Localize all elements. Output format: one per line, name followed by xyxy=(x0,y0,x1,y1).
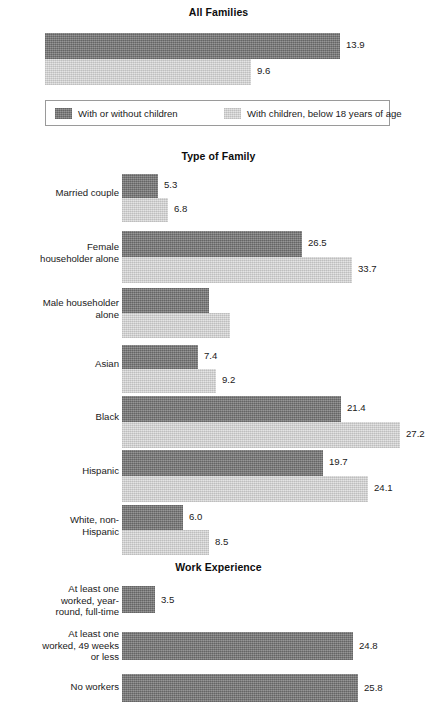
chart-row-asian: Asian 7.4 9.2 xyxy=(0,345,437,393)
value-no-workers-dark: 25.8 xyxy=(364,682,383,693)
chart-row-hispanic: Hispanic 19.7 24.1 xyxy=(0,450,437,502)
row-label-no-workers: No workers xyxy=(9,681,119,693)
bar-white-non-hispanic-dark xyxy=(122,505,183,530)
chart-row-male-householder: Male householder alone xyxy=(0,288,437,338)
bar-married-couple-dark xyxy=(122,174,158,198)
value-married-couple-light: 6.8 xyxy=(174,203,187,214)
row-label-white-non-hispanic: White, non- Hispanic xyxy=(9,514,119,537)
bar-asian-dark xyxy=(122,345,198,369)
chart-row-work-fulltime: At least one worked, year- round, full-t… xyxy=(0,583,437,619)
bar-male-householder-dark xyxy=(122,288,209,313)
value-all-families-light: 9.6 xyxy=(257,65,270,76)
value-all-families-dark: 13.9 xyxy=(346,39,365,50)
legend-item-light: With children, below 18 years of age xyxy=(224,101,402,125)
bar-all-families-dark xyxy=(45,33,340,59)
bar-married-couple-light xyxy=(122,198,168,222)
value-female-householder-dark: 26.5 xyxy=(308,237,327,248)
bar-all-families-light xyxy=(45,59,251,85)
value-female-householder-light: 33.7 xyxy=(358,263,377,274)
section-title-type-of-family: Type of Family xyxy=(0,150,437,162)
chart-row-black: Black 21.4 27.2 xyxy=(0,396,437,448)
row-label-work-49weeks: At least one worked, 49 weeks or less xyxy=(0,628,119,663)
row-label-hispanic: Hispanic xyxy=(9,465,119,477)
legend-label-dark: With or without children xyxy=(78,108,178,119)
value-asian-dark: 7.4 xyxy=(204,350,217,361)
row-label-work-fulltime: At least one worked, year- round, full-t… xyxy=(1,583,119,618)
bar-black-dark xyxy=(122,396,341,422)
bar-asian-light xyxy=(122,369,216,393)
value-hispanic-light: 24.1 xyxy=(374,482,393,493)
value-white-non-hispanic-dark: 6.0 xyxy=(189,511,202,522)
row-label-female-householder: Female householder alone xyxy=(7,241,119,264)
chart-row-all-families: 13.9 9.6 xyxy=(0,33,437,85)
poverty-rate-bar-chart: All Families 13.9 9.6 With or without ch… xyxy=(0,0,437,709)
legend-item-dark: With or without children xyxy=(55,101,178,125)
bar-black-light xyxy=(122,422,400,448)
bar-work-fulltime-dark xyxy=(122,586,155,613)
chart-row-no-workers: No workers 25.8 xyxy=(0,674,437,706)
row-label-male-householder: Male householder alone xyxy=(7,297,119,320)
value-black-dark: 21.4 xyxy=(347,402,366,413)
value-work-fulltime-dark: 3.5 xyxy=(161,594,174,605)
legend-swatch-light-icon xyxy=(224,108,241,119)
bar-male-householder-light xyxy=(122,313,230,338)
value-white-non-hispanic-light: 8.5 xyxy=(215,536,228,547)
section-title-all-families: All Families xyxy=(0,6,437,18)
chart-row-female-householder: Female householder alone 26.5 33.7 xyxy=(0,231,437,283)
bar-hispanic-dark xyxy=(122,450,323,476)
value-asian-light: 9.2 xyxy=(222,374,235,385)
legend-label-light: With children, below 18 years of age xyxy=(247,108,402,119)
value-married-couple-dark: 5.3 xyxy=(164,179,177,190)
bar-white-non-hispanic-light xyxy=(122,530,209,555)
row-label-married-couple: Married couple xyxy=(9,187,119,199)
chart-row-married-couple: Married couple 5.3 6.8 xyxy=(0,174,437,222)
chart-row-white-non-hispanic: White, non- Hispanic 6.0 8.5 xyxy=(0,505,437,555)
row-label-black: Black xyxy=(9,411,119,423)
row-label-asian: Asian xyxy=(9,358,119,370)
bar-no-workers-dark xyxy=(122,674,358,702)
bar-female-householder-dark xyxy=(122,231,302,257)
value-hispanic-dark: 19.7 xyxy=(329,456,348,467)
bar-female-householder-light xyxy=(122,257,352,283)
legend-swatch-dark-icon xyxy=(55,108,72,119)
section-title-work-experience: Work Experience xyxy=(0,561,437,573)
chart-legend: With or without children With children, … xyxy=(45,100,390,126)
chart-row-work-49weeks: At least one worked, 49 weeks or less 24… xyxy=(0,630,437,666)
value-work-49weeks-dark: 24.8 xyxy=(359,640,378,651)
value-black-light: 27.2 xyxy=(406,428,425,439)
bar-hispanic-light xyxy=(122,476,368,502)
bar-work-49weeks-dark xyxy=(122,632,353,660)
